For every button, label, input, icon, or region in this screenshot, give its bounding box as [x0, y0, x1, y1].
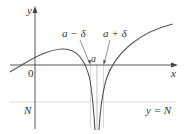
a-plus-delta-arrow-icon: [103, 60, 106, 65]
a-minus-delta-label: a − δ: [62, 27, 86, 39]
a-plus-delta-pointer: [104, 40, 110, 63]
y-axis-label: y: [26, 4, 32, 16]
n-label: N: [23, 104, 32, 116]
a-plus-delta-label: a + δ: [103, 27, 127, 39]
x-axis-label: x: [170, 67, 176, 79]
a-label: a: [91, 53, 96, 64]
limit-diagram: y x 0 a − δ a + δ a N y = N: [0, 0, 187, 134]
y-axis-arrow-icon: [33, 6, 38, 13]
origin-label: 0: [28, 67, 34, 79]
y-equals-n-label: y = N: [145, 104, 172, 116]
function-curve-left: [10, 49, 95, 130]
